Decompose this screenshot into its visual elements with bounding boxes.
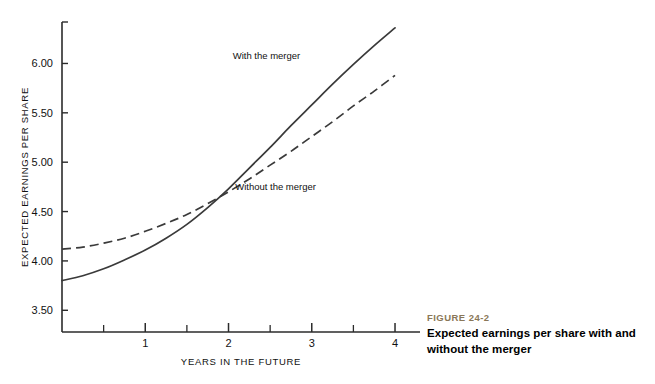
y-axis-title: EXPECTED EARNINGS PER SHARE: [19, 87, 30, 267]
x-axis-label-group: 1234: [142, 337, 398, 349]
figure-container: 3.504.004.505.005.506.00 1234 With the m…: [0, 0, 655, 384]
y-axis-label-group: 3.504.004.505.005.506.00: [32, 57, 53, 316]
series-line-without-merger: [62, 75, 395, 249]
x-axis-tick-label: 1: [142, 337, 148, 349]
figure-title: Expected earnings per share with and wit…: [427, 326, 642, 356]
x-axis-tick-label: 2: [225, 337, 231, 349]
x-axis-tick-group: [104, 323, 395, 332]
y-axis-tick-label: 5.00: [32, 156, 53, 168]
x-axis-tick-label: 4: [392, 337, 398, 349]
y-axis-tick-label: 4.50: [32, 206, 53, 218]
figure-number: FIGURE 24-2: [427, 313, 642, 323]
y-axis-tick-label: 5.50: [32, 107, 53, 119]
series-line-with-merger: [62, 28, 395, 281]
y-axis-tick-group: [62, 22, 68, 310]
y-axis-tick-label: 4.00: [32, 255, 53, 267]
series-annotation-without-merger: Without the merger: [235, 181, 316, 192]
y-axis-tick-label: 6.00: [32, 57, 53, 69]
series-annotation-with-merger: With the merger: [233, 50, 301, 61]
x-axis-tick-label: 3: [309, 337, 315, 349]
x-axis-title: YEARS IN THE FUTURE: [181, 356, 301, 367]
y-axis-tick-label: 3.50: [32, 304, 53, 316]
figure-caption: FIGURE 24-2 Expected earnings per share …: [427, 313, 642, 357]
